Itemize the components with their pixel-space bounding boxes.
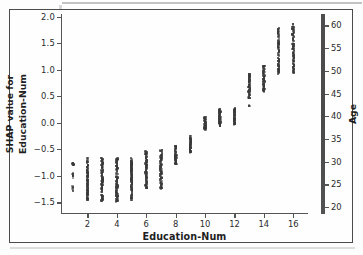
scatter-point xyxy=(219,117,221,119)
scatter-point xyxy=(293,27,295,29)
colorbar-tick-mark xyxy=(325,48,329,49)
scatter-points-layer xyxy=(61,14,308,214)
colorbar-tick-mark xyxy=(325,94,329,95)
scatter-point xyxy=(248,73,250,75)
x-axis-label: Education-Num xyxy=(61,231,308,242)
y-tick-label: −1.0 xyxy=(34,171,55,181)
scatter-point xyxy=(263,74,265,76)
y-tick-mark xyxy=(57,96,61,97)
colorbar-tick-label: 60 xyxy=(331,20,342,30)
scatter-point xyxy=(189,149,191,151)
scatter-point xyxy=(101,181,103,183)
colorbar-tick-label: 25 xyxy=(331,179,342,189)
colorbar-tick-mark xyxy=(325,207,329,208)
scatter-point xyxy=(160,187,162,189)
y-tick-mark xyxy=(57,43,61,44)
x-tick-label: 10 xyxy=(200,219,211,229)
x-tick-mark xyxy=(176,214,177,218)
scatter-point xyxy=(293,40,295,42)
scatter-point xyxy=(263,79,265,81)
y-tick-mark xyxy=(57,149,61,150)
scatter-point xyxy=(102,198,104,200)
scatter-point xyxy=(233,114,235,116)
scatter-point xyxy=(131,199,133,201)
y-tick-label: 2.0 xyxy=(41,12,55,22)
scatter-point xyxy=(248,80,250,82)
scatter-point xyxy=(293,71,295,73)
y-tick-mark xyxy=(57,176,61,177)
y-tick-mark xyxy=(57,70,61,71)
colorbar-tick-label: 20 xyxy=(331,202,342,212)
x-tick-label: 2 xyxy=(85,219,90,229)
scatter-point xyxy=(117,195,119,197)
scatter-point xyxy=(249,78,251,80)
x-tick-mark xyxy=(146,214,147,218)
x-tick-mark xyxy=(117,214,118,218)
x-tick-label: 4 xyxy=(114,219,119,229)
scatter-point xyxy=(101,159,103,161)
colorbar-tick-label: 55 xyxy=(331,43,342,53)
x-tick-mark xyxy=(205,214,206,218)
scatter-point xyxy=(131,191,133,193)
scatter-point xyxy=(175,147,177,149)
scatter-point xyxy=(87,172,89,174)
y-axis-label: SHAP value for Education-Num xyxy=(4,74,29,154)
x-tick-mark xyxy=(87,214,88,218)
scatter-point xyxy=(277,73,279,75)
scatter-point xyxy=(86,158,88,160)
scatter-point xyxy=(204,129,206,131)
scatter-point xyxy=(86,161,88,163)
scan-artifact-bottom-line xyxy=(10,247,355,249)
scatter-point xyxy=(116,165,118,167)
scatter-point xyxy=(145,184,147,186)
scan-artifact-top-line xyxy=(62,2,362,4)
scatter-point xyxy=(278,34,280,36)
x-tick-mark xyxy=(293,214,294,218)
y-tick-label: 0.0 xyxy=(41,118,55,128)
scatter-point xyxy=(72,190,74,192)
scatter-point xyxy=(160,177,162,179)
scatter-point xyxy=(160,157,162,159)
scatter-point xyxy=(130,194,132,196)
y-axis-label-line2: Education-Num xyxy=(16,74,29,154)
colorbar-tick-mark xyxy=(325,116,329,117)
y-axis-label-line1: SHAP value for xyxy=(4,75,15,153)
colorbar: 202530354045505560 xyxy=(321,14,325,214)
x-tick-mark xyxy=(234,214,235,218)
colorbar-tick-mark xyxy=(325,71,329,72)
scatter-point xyxy=(292,54,294,56)
x-tick-label: 12 xyxy=(229,219,240,229)
scatter-point xyxy=(116,179,118,181)
colorbar-tick-label: 30 xyxy=(331,157,342,167)
colorbar-tick-mark xyxy=(325,139,329,140)
x-tick-label: 6 xyxy=(144,219,149,229)
scatter-point xyxy=(131,175,133,177)
colorbar-tick-mark xyxy=(325,162,329,163)
shap-dependence-figure: 2.01.51.00.50.0−0.5−1.0−1.5 246810121416… xyxy=(0,0,363,255)
scatter-point xyxy=(145,187,147,189)
scatter-point xyxy=(86,193,88,195)
x-tick-label: 14 xyxy=(259,219,270,229)
scatter-point xyxy=(278,55,280,57)
scatter-point xyxy=(293,49,295,51)
scatter-point xyxy=(71,173,73,175)
colorbar-tick-label: 45 xyxy=(331,89,342,99)
y-tick-label: 0.5 xyxy=(41,91,55,101)
scatter-point xyxy=(131,178,133,180)
x-tick-label: 16 xyxy=(288,219,299,229)
scatter-point xyxy=(175,154,177,156)
scatter-point xyxy=(219,125,221,127)
scatter-point xyxy=(291,33,293,35)
scatter-point xyxy=(248,85,250,87)
scatter-point xyxy=(87,176,89,178)
scatter-point xyxy=(219,108,221,110)
scatter-point xyxy=(174,163,176,165)
scatter-point xyxy=(101,184,103,186)
scatter-point xyxy=(102,169,104,171)
scatter-point xyxy=(117,173,119,175)
colorbar-tick-label: 35 xyxy=(331,134,342,144)
scatter-point xyxy=(293,68,295,70)
y-tick-label: −1.5 xyxy=(34,197,55,207)
colorbar-tick-label: 40 xyxy=(331,111,342,121)
scatter-point xyxy=(160,172,162,174)
